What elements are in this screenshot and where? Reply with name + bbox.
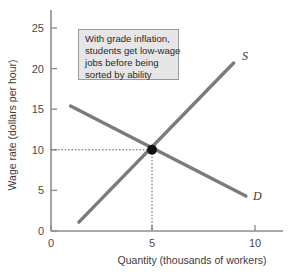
equilibrium-point-marker[interactable] [147,145,157,155]
x-tick-label-5: 5 [149,237,155,249]
x-tick-label-10: 10 [249,237,261,249]
supply-curve[interactable] [79,63,234,222]
x-tick-label-0: 0 [48,237,54,249]
y-axis-ticks: 0 5 10 15 20 25 [32,22,57,237]
demand-curve[interactable] [71,106,246,196]
supply-curve-label: S [242,49,248,63]
note-line-1: With grade inflation, [85,33,170,44]
annotation-note-box: With grade inflation, students get low-w… [79,30,181,81]
note-line-4: sorted by ability [85,69,152,80]
note-line-3: jobs before being [84,57,159,68]
y-tick-label-10: 10 [32,144,44,156]
demand-curve-label: D [252,189,262,203]
supply-demand-chart: 0 5 10 15 20 25 0 5 10 Wage rate (dollar… [0,0,292,272]
chart-canvas: 0 5 10 15 20 25 0 5 10 Wage rate (dollar… [0,0,292,272]
x-axis-ticks: 0 5 10 [48,225,261,249]
y-tick-label-5: 5 [38,184,44,196]
y-axis-title: Wage rate (dollars per hour) [6,60,18,191]
y-tick-label-15: 15 [32,103,44,115]
note-line-2: students get low-wage [85,45,180,56]
y-tick-label-20: 20 [32,63,44,75]
y-tick-label-0: 0 [38,225,44,237]
curves-group [71,63,246,222]
y-tick-label-25: 25 [32,22,44,34]
x-axis-title: Quantity (thousands of workers) [118,254,267,266]
